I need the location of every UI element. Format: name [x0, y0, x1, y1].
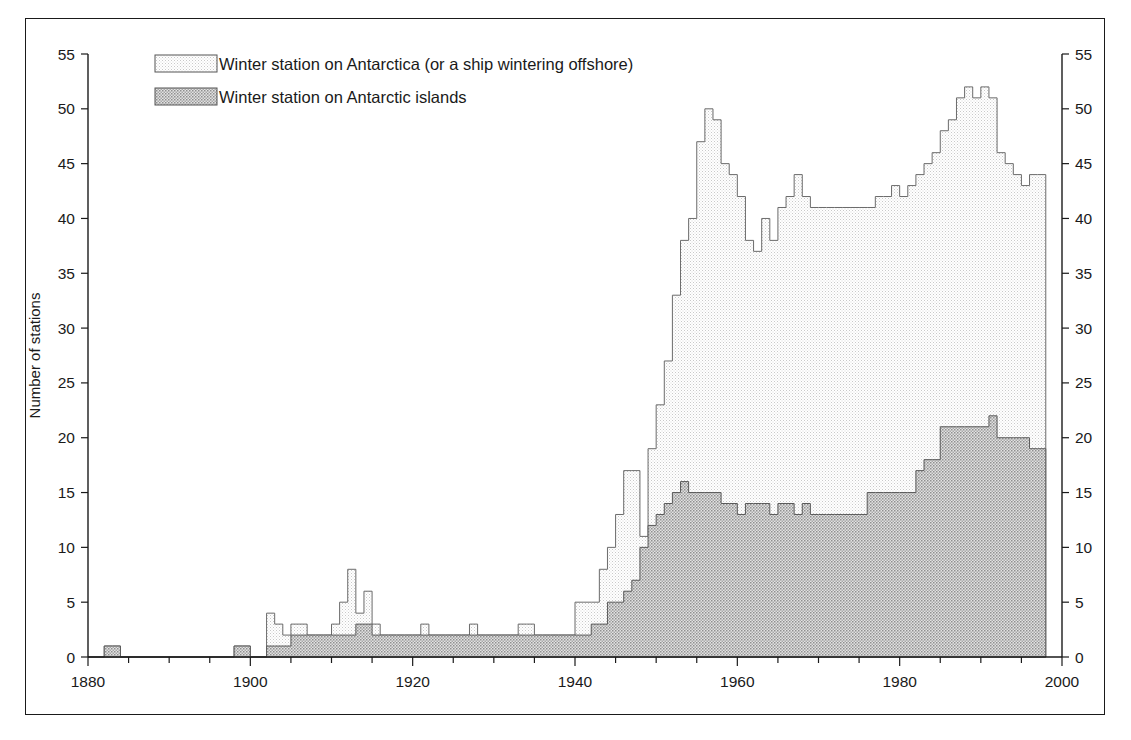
y-tick-label-left: 20	[58, 429, 76, 446]
y-tick-label-right: 55	[1075, 46, 1092, 63]
y-tick-label-left: 45	[58, 155, 75, 172]
x-tick-label: 1940	[558, 673, 593, 690]
y-tick-label-left: 5	[66, 594, 75, 611]
x-tick-label: 1960	[720, 673, 755, 690]
y-tick-label-right: 40	[1075, 210, 1093, 227]
legend-label: Winter station on Antarctica (or a ship …	[219, 55, 633, 73]
y-axis-title: Number of stations	[26, 293, 43, 419]
y-tick-label-left: 55	[58, 46, 75, 63]
y-tick-label-left: 30	[58, 320, 76, 337]
x-tick-label: 1880	[71, 673, 106, 690]
y-tick-label-right: 15	[1075, 484, 1092, 501]
legend-label: Winter station on Antarctic islands	[219, 88, 467, 106]
x-tick-label: 1900	[233, 673, 268, 690]
x-tick-label: 1980	[882, 673, 917, 690]
y-tick-label-right: 30	[1075, 320, 1093, 337]
y-tick-label-left: 35	[58, 265, 75, 282]
x-tick-label: 2000	[1045, 673, 1080, 690]
y-tick-label-left: 0	[66, 649, 75, 666]
y-tick-label-right: 35	[1075, 265, 1092, 282]
y-tick-label-right: 45	[1075, 155, 1092, 172]
x-tick-label: 1920	[395, 673, 430, 690]
y-tick-label-right: 20	[1075, 429, 1093, 446]
y-tick-label-right: 25	[1075, 374, 1092, 391]
y-tick-label-right: 50	[1075, 100, 1093, 117]
series-layer	[88, 87, 1046, 657]
y-tick-label-left: 10	[58, 539, 76, 556]
y-tick-label-left: 15	[58, 484, 75, 501]
legend-swatch-dark	[155, 88, 217, 105]
chart-canvas: 0055101015152020252530303535404045455050…	[0, 0, 1131, 740]
y-tick-label-left: 50	[58, 100, 76, 117]
y-tick-label-right: 10	[1075, 539, 1093, 556]
y-tick-label-left: 40	[58, 210, 76, 227]
y-tick-label-right: 0	[1075, 649, 1084, 666]
y-tick-label-right: 5	[1075, 594, 1084, 611]
y-tick-label-left: 25	[58, 374, 75, 391]
chart-legend: Winter station on Antarctica (or a ship …	[155, 55, 633, 106]
legend-swatch-light	[155, 55, 217, 72]
antarctic-stations-chart: 0055101015152020252530303535404045455050…	[0, 0, 1131, 740]
